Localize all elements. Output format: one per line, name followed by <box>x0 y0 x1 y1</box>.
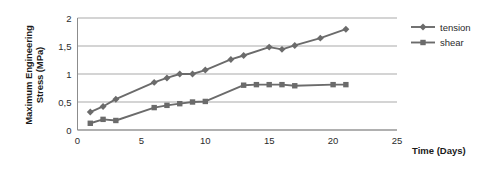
series-line <box>90 29 346 112</box>
data-point-marker <box>100 117 105 122</box>
data-point-marker <box>279 46 286 53</box>
x-tick-label: 10 <box>200 135 211 146</box>
data-point-marker <box>279 82 284 87</box>
chart-plot: 00,511,52 0510152025 tensionshear <box>0 0 496 169</box>
data-point-marker <box>241 83 246 88</box>
data-point-marker <box>164 103 169 108</box>
gridlines <box>78 18 398 130</box>
legend-label: tension <box>440 22 471 33</box>
y-tick-label: 1,5 <box>58 41 71 52</box>
data-point-marker <box>203 99 208 104</box>
data-point-marker <box>267 82 272 87</box>
data-point-marker <box>342 26 349 33</box>
data-point-marker <box>151 105 156 110</box>
y-tick-label: 1 <box>66 69 71 80</box>
legend-label: shear <box>440 37 464 48</box>
data-point-marker <box>189 71 196 78</box>
data-point-marker <box>177 101 182 106</box>
y-tick-label: 2 <box>66 13 71 24</box>
x-axis-title: Time (Days) <box>412 145 466 156</box>
x-tick-label: 25 <box>392 135 403 146</box>
data-point-marker <box>254 82 259 87</box>
y-tick-label: 0,5 <box>58 97 71 108</box>
chart-container: 00,511,52 0510152025 tensionshear Maximu… <box>0 0 496 169</box>
data-point-marker <box>343 82 348 87</box>
data-point-marker <box>113 118 118 123</box>
data-point-marker <box>240 52 247 59</box>
data-point-marker <box>291 42 298 49</box>
data-point-marker <box>202 67 209 74</box>
data-point-marker <box>190 99 195 104</box>
legend-item-tension[interactable]: tension <box>411 22 471 33</box>
x-tick-label: 5 <box>139 135 144 146</box>
data-series-layer <box>87 26 350 126</box>
data-point-marker <box>87 109 94 116</box>
data-point-marker <box>151 79 158 86</box>
legend-item-shear[interactable]: shear <box>411 37 464 48</box>
data-point-marker <box>227 56 234 63</box>
data-point-marker <box>317 35 324 42</box>
y-axis-tick-labels: 00,511,52 <box>58 13 71 136</box>
data-point-marker <box>266 44 273 51</box>
data-point-marker <box>164 74 171 81</box>
x-tick-label: 0 <box>75 135 80 146</box>
data-point-marker <box>88 121 93 126</box>
x-axis-tick-labels: 0510152025 <box>75 135 402 146</box>
series-line <box>90 85 346 124</box>
data-point-marker <box>420 40 425 45</box>
chart-legend: tensionshear <box>411 22 471 49</box>
data-point-marker <box>330 82 335 87</box>
x-tick-label: 15 <box>264 135 275 146</box>
data-point-marker <box>292 83 297 88</box>
series-shear <box>88 82 349 126</box>
data-point-marker <box>176 71 183 78</box>
x-tick-label: 20 <box>328 135 339 146</box>
data-point-marker <box>420 24 427 31</box>
y-tick-label: 0 <box>66 125 71 136</box>
